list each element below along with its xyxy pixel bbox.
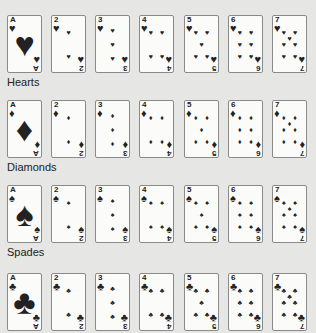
card-7-spades: 7♠7♠♠♠♠♠♠♠♠: [272, 185, 307, 243]
card-4-clubs: 4♣4♣♣♣♣♣: [139, 273, 174, 331]
spade-icon: ♠: [122, 224, 128, 235]
diamond-icon: ♦: [299, 139, 305, 150]
rank-label: 7: [300, 322, 304, 330]
diamond-icon: ♦: [282, 138, 286, 145]
club-icon: ♣: [194, 286, 199, 293]
card-6-diamonds: 6♦6♦♦♦♦♦♦♦: [228, 100, 263, 158]
diamond-icon: ♦: [16, 112, 33, 146]
diamond-icon: ♦: [166, 139, 172, 150]
card-5-spades: 5♠5♠♠♠♠♠♠: [184, 185, 219, 243]
rank-label: 4: [167, 64, 171, 72]
rank-label: A: [33, 64, 39, 72]
card-5-hearts: 5♥5♥♥♥♥♥♥: [184, 15, 219, 73]
spade-icon: ♠: [238, 223, 242, 230]
diamond-icon: ♦: [111, 126, 115, 133]
rank-label: 6: [256, 234, 260, 242]
card-3-hearts: 3♥3♥♥♥♥: [95, 15, 130, 73]
club-icon: ♣: [77, 312, 84, 323]
card-4-diamonds: 4♦4♦♦♦♦♦: [139, 100, 174, 158]
heart-icon: ♥: [14, 27, 34, 61]
rank-label: 5: [212, 149, 216, 157]
heart-icon: ♥: [160, 53, 164, 60]
spade-icon: ♠: [249, 198, 253, 205]
diamond-icon: ♦: [282, 126, 286, 133]
suit-label-hearts: Hearts: [7, 76, 39, 88]
diamond-icon: ♦: [238, 126, 242, 133]
spade-icon: ♠: [282, 198, 286, 205]
club-icon: ♣: [110, 313, 115, 320]
diamond-icon: ♦: [141, 108, 147, 119]
spade-icon: ♠: [238, 198, 242, 205]
heart-icon: ♥: [110, 41, 114, 48]
spade-icon: ♠: [111, 225, 115, 232]
club-icon: ♣: [298, 312, 305, 323]
heart-icon: ♥: [282, 41, 286, 48]
diamond-icon: ♦: [160, 138, 164, 145]
spade-icon: ♠: [255, 224, 261, 235]
diamond-icon: ♦: [282, 113, 286, 120]
spade-icon: ♠: [299, 224, 305, 235]
club-icon: ♣: [274, 281, 281, 292]
spade-icon: ♠: [53, 193, 59, 204]
club-icon: ♣: [199, 299, 204, 306]
diamond-icon: ♦: [67, 113, 71, 120]
heart-icon: ♥: [199, 41, 203, 48]
rank-label: 3: [123, 64, 127, 72]
card-3-clubs: 3♣3♣♣♣♣: [95, 273, 130, 331]
heart-icon: ♥: [110, 27, 114, 34]
card-A-clubs: A♣A♣♣: [7, 273, 42, 331]
spade-icon: ♠: [249, 223, 253, 230]
spade-icon: ♠: [149, 198, 153, 205]
diamond-icon: ♦: [122, 139, 128, 150]
card-2-diamonds: 2♦2♦♦♦: [51, 100, 86, 158]
card-2-clubs: 2♣2♣♣♣: [51, 273, 86, 331]
card-3-diamonds: 3♦3♦♦♦♦: [95, 100, 130, 158]
club-icon: ♣: [293, 311, 298, 318]
heart-icon: ♥: [238, 53, 242, 60]
spade-icon: ♠: [194, 223, 198, 230]
club-icon: ♣: [287, 292, 292, 299]
club-icon: ♣: [149, 311, 154, 318]
spade-icon: ♠: [67, 198, 71, 205]
heart-icon: ♥: [238, 41, 242, 48]
rank-label: 6: [256, 64, 260, 72]
heart-icon: ♥: [249, 28, 253, 35]
suit-label-spades: Spades: [7, 246, 44, 258]
card-7-clubs: 7♣7♣♣♣♣♣♣♣♣: [272, 273, 307, 331]
rank-label: 6: [256, 149, 260, 157]
club-icon: ♣: [66, 311, 71, 318]
club-icon: ♣: [238, 286, 243, 293]
diamond-icon: ♦: [274, 108, 280, 119]
diamond-icon: ♦: [34, 139, 40, 150]
heart-icon: ♥: [194, 28, 198, 35]
heart-icon: ♥: [249, 41, 253, 48]
diamond-icon: ♦: [249, 138, 253, 145]
rank-label: 2: [79, 322, 83, 330]
rank-label: 2: [79, 149, 83, 157]
club-icon: ♣: [141, 281, 148, 292]
heart-icon: ♥: [165, 54, 172, 65]
club-icon: ♣: [293, 299, 298, 306]
card-3-spades: 3♠3♠♠♠♠: [95, 185, 130, 243]
card-A-hearts: A♥A♥♥: [7, 15, 42, 73]
heart-icon: ♥: [110, 55, 114, 62]
heart-icon: ♥: [141, 23, 148, 34]
club-icon: ♣: [97, 281, 104, 292]
diamond-icon: ♦: [186, 108, 192, 119]
rank-label: 3: [123, 322, 127, 330]
diamond-icon: ♦: [67, 138, 71, 145]
diamond-icon: ♦: [53, 108, 59, 119]
club-icon: ♣: [238, 299, 243, 306]
card-7-hearts: 7♥7♥♥♥♥♥♥♥♥: [272, 15, 307, 73]
card-6-spades: 6♠6♠♠♠♠♠♠♠: [228, 185, 263, 243]
spade-icon: ♠: [293, 211, 297, 218]
card-6-hearts: 6♥6♥♥♥♥♥♥♥: [228, 15, 263, 73]
rank-label: 3: [123, 234, 127, 242]
heart-icon: ♥: [186, 23, 193, 34]
spade-icon: ♠: [111, 197, 115, 204]
diamond-icon: ♦: [249, 126, 253, 133]
heart-icon: ♥: [66, 28, 70, 35]
spade-icon: ♠: [282, 223, 286, 230]
suit-label-diamonds: Diamonds: [7, 161, 57, 173]
diamond-icon: ♦: [160, 113, 164, 120]
